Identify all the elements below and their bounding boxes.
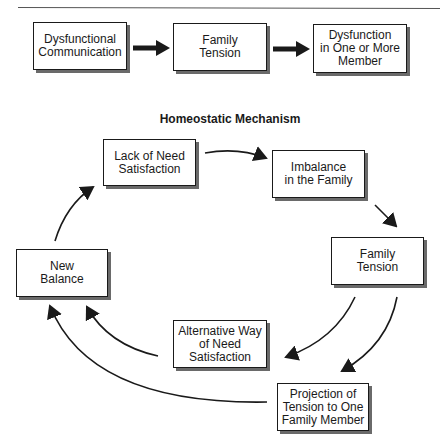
arrow-balance-to-lack-icon [55, 187, 93, 241]
arrow-projection-to-balance-icon [50, 306, 267, 402]
arrow-imbalance-to-tension-icon [375, 205, 396, 226]
arrow-tension-to-projection-icon [342, 297, 397, 371]
arrow-lack-to-imbalance-icon [205, 151, 266, 158]
thick-arrow-1-icon [133, 40, 170, 56]
thick-arrow-2-icon [273, 41, 310, 57]
arrows-layer [0, 0, 445, 444]
arrow-tension-to-alternative-icon [286, 297, 355, 357]
arrow-alternative-to-balance-icon [87, 307, 158, 356]
